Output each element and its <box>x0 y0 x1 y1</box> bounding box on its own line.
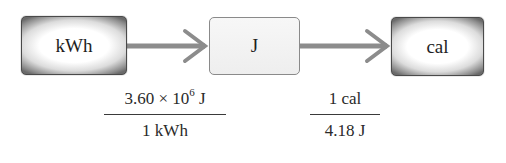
fraction-numerator: 1 cal <box>329 88 362 110</box>
numerator-unit: J <box>195 89 206 108</box>
arrow-j-to-cal <box>300 31 387 61</box>
fraction-numerator: 3.60 × 106 J <box>124 88 205 110</box>
node-kwh: kWh <box>21 16 127 75</box>
fraction-denominator: 1 kWh <box>142 120 188 142</box>
fraction-bar <box>104 114 226 115</box>
node-j: J <box>209 17 300 75</box>
node-kwh-label: kWh <box>56 35 93 57</box>
fraction-bar <box>310 114 380 115</box>
node-cal-label: cal <box>426 36 448 58</box>
arrow-kwh-to-j <box>127 31 205 61</box>
conversion-factor-kwh-to-j: 3.60 × 106 J 1 kWh <box>104 88 226 142</box>
numerator-coefficient: 3.60 × 10 <box>124 89 189 108</box>
conversion-factor-j-to-cal: 1 cal 4.18 J <box>310 88 380 142</box>
node-cal: cal <box>391 17 484 76</box>
node-j-label: J <box>251 35 258 57</box>
fraction-denominator: 4.18 J <box>325 120 366 142</box>
